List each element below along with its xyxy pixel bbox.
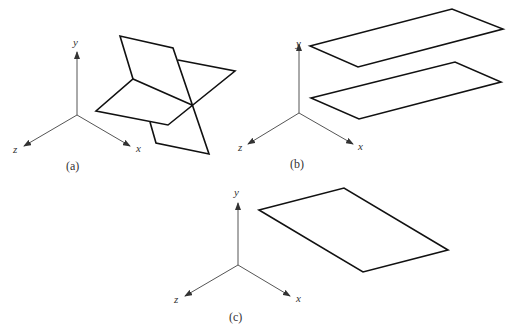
lower-parallel-plane — [311, 62, 501, 119]
caption-c: (c) — [229, 310, 242, 324]
caption-a: (a) — [66, 159, 79, 173]
axes-a: y z x — [12, 36, 141, 155]
x-label: x — [135, 142, 141, 154]
intersecting-planes — [96, 36, 235, 154]
panel-c: y z x (c) — [173, 186, 448, 324]
z-axis — [185, 265, 238, 296]
x-label: x — [357, 140, 363, 152]
z-label: z — [173, 293, 179, 305]
caption-b: (b) — [290, 157, 304, 171]
x-axis — [299, 113, 353, 144]
x-axis — [238, 265, 290, 296]
upper-parallel-plane — [310, 9, 503, 67]
x-axis — [77, 115, 130, 146]
plane-1 — [120, 36, 209, 154]
single-plane — [259, 188, 448, 272]
z-axis — [24, 115, 77, 146]
y-label: y — [295, 37, 301, 49]
figure-canvas: y z x (a) y z x (b) y — [0, 0, 517, 334]
z-label: z — [12, 143, 18, 155]
plane-2 — [96, 60, 235, 125]
y-label: y — [233, 186, 239, 198]
z-label: z — [237, 141, 243, 153]
z-axis — [248, 113, 299, 144]
x-label: x — [295, 292, 301, 304]
panel-b: y z x (b) — [237, 9, 503, 171]
axes-b: y z x — [237, 37, 363, 153]
y-label: y — [72, 36, 78, 48]
panel-a: y z x (a) — [12, 36, 235, 173]
